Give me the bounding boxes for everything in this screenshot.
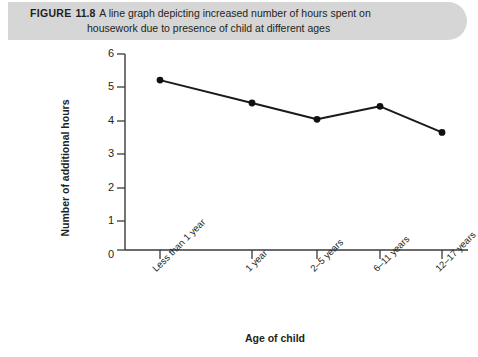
figure-caption-line-1: A line graph depicting increased number … (99, 7, 370, 19)
data-point-0 (157, 77, 164, 84)
plot-canvas (0, 42, 475, 357)
figure-number: 11.8 (75, 7, 95, 19)
figure-caption-text: FIGURE11.8A line graph depicting increas… (30, 6, 450, 35)
x-axis-title: Age of child (205, 332, 345, 344)
line-chart: Number of additional hours 6 5 4 3 2 1 0 (0, 42, 475, 357)
figure-caption-banner: FIGURE11.8A line graph depicting increas… (8, 2, 467, 40)
data-point-2 (314, 116, 321, 123)
data-point-markers (157, 77, 446, 136)
data-point-1 (249, 100, 256, 107)
data-point-3 (377, 103, 384, 110)
data-series-line (160, 80, 442, 132)
y-axis-ticks (117, 54, 125, 250)
figure-caption-line-2: housework due to presence of child at di… (87, 21, 450, 36)
figure-label-word: FIGURE (30, 7, 71, 19)
data-point-4 (439, 129, 446, 136)
